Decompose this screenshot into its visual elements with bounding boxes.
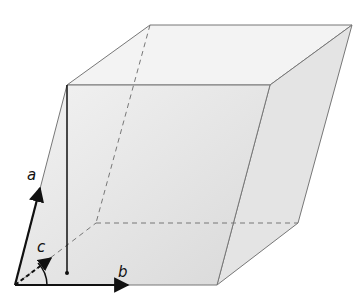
label-a: a <box>27 166 36 184</box>
height-foot-dot <box>65 271 69 275</box>
label-b: b <box>118 263 128 281</box>
label-c: c <box>37 238 46 256</box>
parallelepiped-diagram: a b c <box>0 0 360 304</box>
